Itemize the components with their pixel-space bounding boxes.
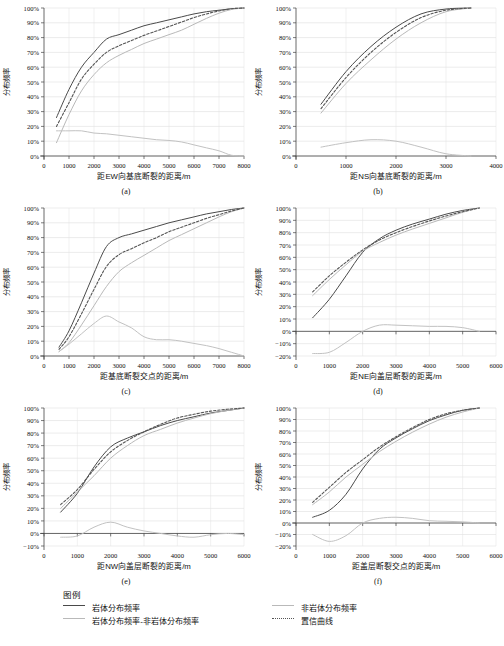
svg-text:70%: 70%: [27, 49, 40, 56]
svg-text:2000: 2000: [87, 362, 101, 369]
series-line: [57, 8, 245, 143]
svg-text:7000: 7000: [212, 162, 226, 169]
subplot-caption: (d): [252, 387, 504, 396]
svg-text:90%: 90%: [279, 19, 292, 26]
svg-text:−10%: −10%: [23, 543, 39, 550]
svg-text:10%: 10%: [27, 138, 40, 145]
svg-text:1000: 1000: [62, 362, 76, 369]
svg-text:80%: 80%: [27, 234, 40, 241]
svg-text:50%: 50%: [279, 266, 292, 273]
svg-text:距NW向盖层断裂的距离/m: 距NW向盖层断裂的距离/m: [97, 561, 191, 571]
svg-text:5000: 5000: [456, 552, 470, 559]
series-line: [57, 131, 245, 156]
svg-text:30%: 30%: [27, 492, 40, 499]
legend-item-confidence: 置信曲线: [272, 615, 333, 626]
legend-label-confidence: 置信曲线: [301, 617, 333, 626]
svg-text:50%: 50%: [27, 467, 40, 474]
svg-text:40%: 40%: [279, 474, 292, 481]
series-line: [59, 316, 244, 356]
svg-text:2000: 2000: [389, 162, 403, 169]
legend-swatch-rock-icon: [63, 605, 85, 606]
svg-text:2000: 2000: [87, 162, 101, 169]
svg-text:80%: 80%: [27, 34, 40, 41]
svg-text:8000: 8000: [237, 362, 251, 369]
subplot-caption: (f): [252, 577, 504, 586]
svg-text:100%: 100%: [24, 205, 40, 212]
svg-text:距EW向基底断裂的距离/m: 距EW向基底断裂的距离/m: [97, 171, 190, 181]
subplot-caption: (a): [0, 187, 252, 196]
svg-text:0%: 0%: [282, 520, 291, 527]
svg-text:距基底断裂交点的距离/m: 距基底断裂交点的距离/m: [100, 371, 189, 381]
svg-text:4000: 4000: [137, 162, 151, 169]
legend-label-rock: 岩体分布频率: [92, 604, 140, 613]
svg-text:20%: 20%: [27, 123, 40, 130]
svg-text:分布频率: 分布频率: [254, 462, 263, 491]
svg-text:80%: 80%: [27, 430, 40, 437]
svg-text:10%: 10%: [27, 518, 40, 525]
svg-text:1000: 1000: [71, 552, 85, 559]
series-line: [59, 208, 244, 349]
svg-text:40%: 40%: [27, 93, 40, 100]
svg-text:40%: 40%: [279, 279, 292, 286]
svg-text:0: 0: [294, 162, 298, 169]
svg-text:0: 0: [42, 362, 46, 369]
svg-text:90%: 90%: [27, 417, 40, 424]
subplot-b: 0%10%20%30%40%50%60%70%80%90%100%0100020…: [252, 0, 504, 200]
svg-text:2000: 2000: [356, 362, 370, 369]
svg-text:30%: 30%: [27, 308, 40, 315]
svg-text:6000: 6000: [489, 552, 503, 559]
svg-text:6000: 6000: [187, 162, 201, 169]
svg-text:90%: 90%: [279, 416, 292, 423]
svg-text:70%: 70%: [27, 442, 40, 449]
svg-text:−10%: −10%: [275, 531, 291, 538]
svg-text:90%: 90%: [27, 219, 40, 226]
svg-text:10%: 10%: [27, 338, 40, 345]
svg-text:100%: 100%: [276, 405, 292, 412]
svg-text:80%: 80%: [279, 34, 292, 41]
svg-text:1000: 1000: [339, 162, 353, 169]
svg-text:4000: 4000: [171, 552, 185, 559]
svg-text:30%: 30%: [279, 485, 292, 492]
svg-text:100%: 100%: [276, 205, 292, 212]
svg-text:距NE向盖层断裂的距离/m: 距NE向盖层断裂的距离/m: [350, 371, 442, 381]
svg-text:60%: 60%: [27, 455, 40, 462]
series-line: [61, 408, 244, 512]
svg-text:4000: 4000: [423, 362, 437, 369]
svg-text:30%: 30%: [279, 108, 292, 115]
svg-text:7000: 7000: [212, 362, 226, 369]
svg-text:60%: 60%: [27, 64, 40, 71]
svg-text:80%: 80%: [279, 428, 292, 435]
svg-text:20%: 20%: [279, 497, 292, 504]
svg-text:6000: 6000: [187, 362, 201, 369]
svg-text:20%: 20%: [279, 303, 292, 310]
series-line: [57, 8, 245, 118]
svg-text:50%: 50%: [279, 462, 292, 469]
svg-text:5000: 5000: [162, 162, 176, 169]
subplot-caption: (c): [0, 387, 252, 396]
svg-text:70%: 70%: [27, 249, 40, 256]
svg-text:6000: 6000: [489, 362, 503, 369]
svg-text:2000: 2000: [104, 552, 118, 559]
svg-text:1000: 1000: [323, 552, 337, 559]
svg-text:50%: 50%: [279, 79, 292, 86]
svg-text:2000: 2000: [356, 552, 370, 559]
series-line: [61, 408, 244, 505]
svg-text:0%: 0%: [30, 153, 39, 160]
svg-text:−20%: −20%: [275, 543, 291, 550]
svg-text:5000: 5000: [162, 362, 176, 369]
svg-text:100%: 100%: [24, 5, 40, 12]
svg-text:5000: 5000: [204, 552, 218, 559]
subplot-e: −10%0%10%20%30%40%50%60%70%80%90%100%010…: [0, 400, 252, 590]
svg-text:30%: 30%: [279, 291, 292, 298]
series-line: [59, 208, 244, 352]
legend-title: 图例: [63, 588, 81, 600]
svg-text:10%: 10%: [279, 316, 292, 323]
svg-text:70%: 70%: [279, 49, 292, 56]
svg-text:50%: 50%: [27, 79, 40, 86]
svg-text:分布频率: 分布频率: [254, 267, 263, 296]
svg-text:70%: 70%: [279, 242, 292, 249]
svg-text:0%: 0%: [282, 328, 291, 335]
svg-text:0%: 0%: [282, 153, 291, 160]
svg-text:90%: 90%: [279, 217, 292, 224]
subplot-d: −20%−10%0%10%20%30%40%50%60%70%80%90%100…: [252, 200, 504, 400]
